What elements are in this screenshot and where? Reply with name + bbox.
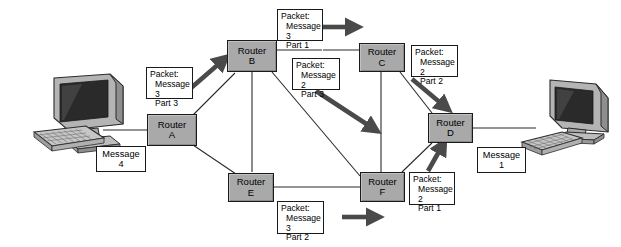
router-c-label-line1: Router xyxy=(368,47,397,57)
packet-message2-part2: Packet: Message 2 Part 2 xyxy=(411,45,458,77)
message-1-line2: 1 xyxy=(499,160,504,170)
packet-m3p2-part: Part 2 xyxy=(281,233,320,243)
router-d-label-line2: D xyxy=(447,128,454,138)
packet-m2p1-message: Message 2 xyxy=(413,185,451,205)
router-c-label-line2: C xyxy=(379,58,386,68)
packet-m3p1-part: Part 1 xyxy=(281,41,319,51)
network-diagram-canvas: Router A Router B Router C Router D Rout… xyxy=(0,0,621,247)
router-d-node[interactable]: Router D xyxy=(428,113,473,143)
arrow-m3p3-to-b xyxy=(191,62,221,88)
router-e-label-line2: E xyxy=(248,188,254,198)
packet-m2p2-part: Part 2 xyxy=(415,77,454,87)
packet-m2p3-message: Message 2 xyxy=(296,71,336,91)
router-a-node[interactable]: Router A xyxy=(147,114,197,146)
message-1-label: Message 1 xyxy=(477,147,526,173)
arrow-m2p1-to-d xyxy=(428,148,441,171)
message-4-line2: 4 xyxy=(118,159,123,169)
packet-message3-part1: Packet: Message 3 Part 1 xyxy=(277,9,323,41)
router-e-label-line1: Router xyxy=(237,177,266,187)
router-f-node[interactable]: Router F xyxy=(360,172,405,202)
packet-m2p2-message: Message 2 xyxy=(415,58,454,78)
router-b-label-line2: B xyxy=(249,56,255,66)
packet-m3p3-message: Message 3 xyxy=(150,80,189,100)
message-4-label: Message 4 xyxy=(96,146,146,172)
packet-m3p3-part: Part 3 xyxy=(150,99,189,109)
message-4-line1: Message xyxy=(102,149,139,159)
router-e-node[interactable]: Router E xyxy=(228,173,274,202)
router-c-node[interactable]: Router C xyxy=(359,43,405,72)
packet-m3p2-message: Message 3 xyxy=(281,214,320,234)
receiver-workstation xyxy=(520,76,620,164)
packet-message2-part1: Packet: Message 2 Part 1 xyxy=(409,172,455,205)
packet-message3-part3: Packet: Message 3 Part 3 xyxy=(146,67,193,99)
packet-m2p3-part: Part 3 xyxy=(296,90,336,100)
packet-m3p1-message: Message 3 xyxy=(281,22,319,42)
packet-message3-part2: Packet: Message 3 Part 2 xyxy=(277,201,324,234)
router-f-label-line2: F xyxy=(380,187,386,197)
packet-m2p1-part: Part 1 xyxy=(413,204,451,214)
message-1-line1: Message xyxy=(483,150,520,160)
router-b-node[interactable]: Router B xyxy=(227,40,277,72)
packet-message2-part3: Packet: Message 2 Part 3 xyxy=(292,58,340,90)
router-a-label-line2: A xyxy=(169,130,175,140)
